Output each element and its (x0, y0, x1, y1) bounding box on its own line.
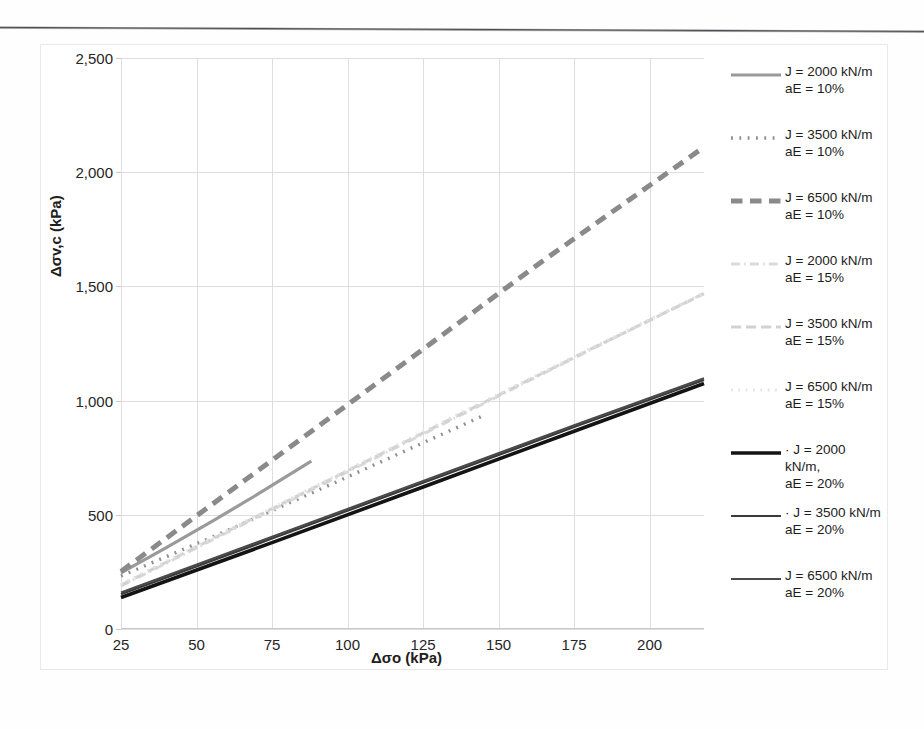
x-tick-label: 175 (562, 636, 587, 653)
legend-swatch-icon (731, 384, 781, 396)
legend-item[interactable]: J = 6500 kN/m aE = 10% (731, 189, 883, 229)
x-tick-label: 150 (486, 636, 511, 653)
plot-area: 05001,0001,5002,0002,500 255075100125150… (121, 58, 704, 629)
x-tick-label: 50 (188, 636, 205, 653)
legend-swatch-icon (731, 573, 781, 585)
series-layer (121, 58, 704, 629)
legend-item[interactable]: J = 3500 kN/m aE = 15% (731, 315, 883, 355)
series-line (121, 380, 704, 594)
series-line (121, 383, 704, 597)
legend-label: J = 6500 kN/m aE = 10% (785, 189, 883, 223)
series-line (121, 461, 311, 573)
gridline-horizontal (121, 629, 704, 630)
x-tick-label: 75 (264, 636, 281, 653)
legend-item[interactable]: · J = 2000 kN/m, aE = 20% (731, 441, 883, 481)
legend-label: J = 2000 kN/m aE = 10% (785, 63, 883, 97)
legend-swatch-icon (731, 195, 781, 207)
y-tick-mark (116, 629, 121, 630)
legend-label: J = 3500 kN/m aE = 15% (785, 315, 883, 349)
y-tick-label: 2,000 (75, 164, 113, 181)
legend-item[interactable]: J = 6500 kN/m aE = 15% (731, 378, 883, 418)
legend-swatch-icon (731, 447, 781, 459)
plot-wrapper: Δσv,c (kPa) Δσo (kPa) 05001,0001,5002,00… (41, 45, 889, 671)
y-tick-label: 2,500 (75, 50, 113, 67)
x-tick-label: 200 (637, 636, 662, 653)
legend-swatch-icon (731, 258, 781, 270)
series-line (121, 378, 704, 592)
y-axis-title: Δσv,c (kPa) (47, 195, 64, 277)
legend-label: J = 6500 kN/m aE = 20% (785, 567, 883, 601)
legend-item[interactable]: J = 2000 kN/m aE = 10% (731, 63, 883, 103)
y-tick-label: 1,500 (75, 278, 113, 295)
legend-label: J = 2000 kN/m aE = 15% (785, 252, 883, 286)
legend-label: · J = 3500 kN/m aE = 20% (785, 504, 883, 538)
legend-item[interactable]: J = 6500 kN/m aE = 20% (731, 567, 883, 607)
legend-label: · J = 2000 kN/m, aE = 20% (785, 441, 883, 492)
x-tick-label: 125 (411, 636, 436, 653)
legend-swatch-icon (731, 69, 781, 81)
legend-label: J = 3500 kN/m aE = 10% (785, 126, 883, 160)
series-line (121, 147, 704, 571)
legend-item[interactable]: J = 2000 kN/m aE = 15% (731, 252, 883, 292)
legend-item[interactable]: J = 3500 kN/m aE = 10% (731, 126, 883, 166)
series-line (121, 414, 487, 576)
legend-swatch-icon (731, 132, 781, 144)
page-header-rule (0, 26, 924, 33)
scanned-page: Δσv,c (kPa) Δσo (kPa) 05001,0001,5002,00… (0, 0, 924, 729)
chart-frame: Δσv,c (kPa) Δσo (kPa) 05001,0001,5002,00… (40, 44, 888, 670)
y-tick-label: 1,000 (75, 392, 113, 409)
legend-label: J = 6500 kN/m aE = 15% (785, 378, 883, 412)
y-tick-label: 0 (105, 621, 113, 638)
legend-swatch-icon (731, 321, 781, 333)
x-tick-label: 25 (113, 636, 130, 653)
legend-item[interactable]: · J = 3500 kN/m aE = 20% (731, 504, 883, 544)
legend-swatch-icon (731, 510, 781, 522)
y-tick-label: 500 (88, 506, 113, 523)
x-tick-label: 100 (335, 636, 360, 653)
